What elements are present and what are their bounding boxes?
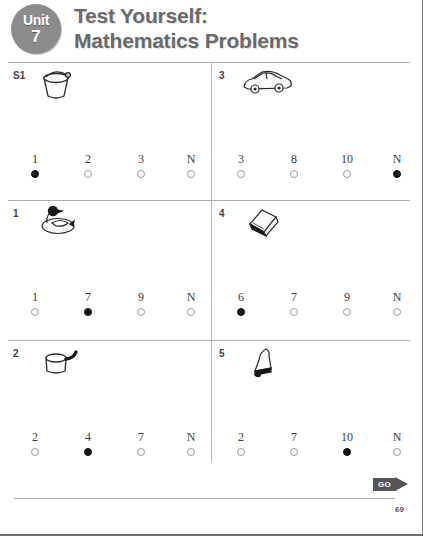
answer-bubble[interactable] [393, 448, 401, 456]
answer-bubble[interactable] [31, 308, 39, 316]
answer-option[interactable]: 1 [13, 290, 57, 316]
answer-option-label: N [375, 152, 419, 167]
answer-option[interactable]: N [169, 290, 213, 316]
answer-option[interactable]: 9 [325, 290, 369, 316]
answer-option[interactable]: N [169, 430, 213, 456]
answer-option[interactable]: 7 [272, 290, 316, 316]
go-badge: GO [373, 477, 409, 492]
answer-bubble[interactable] [237, 170, 245, 178]
answer-bubble[interactable] [290, 170, 298, 178]
question-number: 4 [219, 208, 225, 219]
answer-bubble[interactable] [84, 448, 92, 456]
question-cell-1: 1 1 [8, 202, 209, 340]
answer-option-label: 7 [272, 430, 316, 445]
question-grid: S1 1 2 [8, 62, 410, 462]
worksheet-page: Unit 7 Test Yourself: Mathematics Proble… [0, 0, 423, 536]
answer-option-label: N [375, 290, 419, 305]
answer-option[interactable]: 2 [219, 430, 263, 456]
answer-bubble[interactable] [393, 170, 401, 178]
question-cell-5: 5 2 7 [214, 342, 415, 480]
answer-option-label: N [375, 430, 419, 445]
go-label: GO [373, 478, 396, 491]
answer-option-label: 7 [66, 290, 110, 305]
unit-badge-word: Unit [11, 4, 61, 27]
answer-option[interactable]: N [375, 290, 419, 316]
answer-option[interactable]: N [375, 152, 419, 178]
answer-option[interactable]: N [169, 152, 213, 178]
answer-option[interactable]: 6 [219, 290, 263, 316]
page-header: Unit 7 Test Yourself: Mathematics Proble… [0, 0, 423, 58]
question-number: 2 [13, 348, 19, 359]
answer-option-label: 7 [272, 290, 316, 305]
answer-option-label: 4 [66, 430, 110, 445]
answer-option-label: N [169, 290, 213, 305]
question-cell-s1: S1 1 2 [8, 64, 209, 202]
answer-option[interactable]: 7 [272, 430, 316, 456]
answer-option[interactable]: 3 [119, 152, 163, 178]
answer-bubble[interactable] [187, 170, 195, 178]
answer-bubble[interactable] [84, 308, 92, 316]
answer-bubble[interactable] [237, 308, 245, 316]
answer-options: 2 7 10 N [214, 430, 415, 472]
answer-bubble[interactable] [84, 170, 92, 178]
answer-bubble[interactable] [393, 308, 401, 316]
answer-option-label: 2 [219, 430, 263, 445]
answer-option[interactable]: 2 [13, 430, 57, 456]
answer-bubble[interactable] [31, 170, 39, 178]
answer-bubble[interactable] [187, 448, 195, 456]
unit-badge: Unit 7 [11, 4, 61, 54]
arrow-right-icon [395, 477, 408, 491]
duck-icon [34, 204, 90, 242]
page-title-line1: Test Yourself: [74, 4, 208, 27]
page-title-line2: Mathematics Problems [74, 28, 299, 53]
answer-bubble[interactable] [290, 308, 298, 316]
answer-option-label: N [169, 430, 213, 445]
answer-option[interactable]: 10 [325, 430, 369, 456]
answer-option[interactable]: 1 [13, 152, 57, 178]
answer-bubble[interactable] [343, 448, 351, 456]
answer-options: 2 4 7 N [8, 430, 209, 472]
answer-option-label: 2 [66, 152, 110, 167]
answer-option-label: N [169, 152, 213, 167]
answer-bubble[interactable] [137, 170, 145, 178]
answer-option-label: 9 [119, 290, 163, 305]
answer-bubble[interactable] [137, 308, 145, 316]
answer-option[interactable]: 9 [119, 290, 163, 316]
answer-bubble[interactable] [343, 308, 351, 316]
answer-option-label: 6 [219, 290, 263, 305]
grid-divider-top [8, 62, 410, 63]
answer-option-label: 9 [325, 290, 369, 305]
answer-bubble[interactable] [290, 448, 298, 456]
answer-option-label: 10 [325, 152, 369, 167]
answer-bubble[interactable] [343, 170, 351, 178]
answer-option-label: 2 [13, 430, 57, 445]
question-number: 5 [219, 348, 225, 359]
question-cell-2: 2 2 4 [8, 342, 209, 480]
question-number: 1 [13, 208, 19, 219]
answer-option[interactable]: N [375, 430, 419, 456]
car-icon [240, 66, 296, 104]
answer-option-label: 3 [119, 152, 163, 167]
answer-option[interactable]: 4 [66, 430, 110, 456]
answer-option-label: 7 [119, 430, 163, 445]
answer-bubble[interactable] [31, 448, 39, 456]
unit-badge-number: 7 [11, 28, 61, 45]
answer-options: 1 7 9 N [8, 290, 209, 332]
grid-divider-row2 [8, 340, 410, 341]
answer-option[interactable]: 8 [272, 152, 316, 178]
answer-options: 6 7 9 N [214, 290, 415, 332]
answer-bubble[interactable] [237, 448, 245, 456]
answer-option-label: 8 [272, 152, 316, 167]
answer-bubble[interactable] [187, 308, 195, 316]
answer-option[interactable]: 10 [325, 152, 369, 178]
footer-divider [14, 498, 395, 499]
answer-option[interactable]: 7 [66, 290, 110, 316]
answer-option-label: 3 [219, 152, 263, 167]
answer-bubble[interactable] [137, 448, 145, 456]
answer-option-label: 10 [325, 430, 369, 445]
bell-icon [240, 344, 296, 382]
answer-option[interactable]: 7 [119, 430, 163, 456]
bucket-icon [34, 66, 90, 104]
answer-option[interactable]: 3 [219, 152, 263, 178]
answer-option[interactable]: 2 [66, 152, 110, 178]
